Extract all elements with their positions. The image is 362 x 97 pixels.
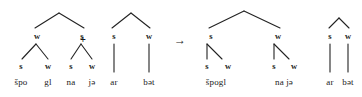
node-label-o-right: w <box>275 32 281 41</box>
terminal-t1-f4: jə <box>89 78 96 87</box>
input-tree-1-left-subtree-branches <box>22 44 48 59</box>
input-tree-1-right-subtree-branches <box>71 44 92 59</box>
terminal-t1-f1: špo <box>15 78 28 87</box>
node-label-o-l-s: s <box>205 62 208 71</box>
output-tree-right-subtree-branches <box>274 44 289 59</box>
node-label-o-r-w: w <box>291 62 297 71</box>
node-label-o2-w: w <box>345 32 351 41</box>
node-label-t1-l-s: s <box>19 62 22 71</box>
output-tree-2-top-branches <box>329 18 349 28</box>
node-label-o2-s: s <box>328 32 331 41</box>
output-tree-left-subtree-branches <box>207 44 222 59</box>
terminal-o-f2: na jə <box>275 78 293 87</box>
terminal-o2-f2: bət <box>342 78 353 87</box>
arrow-operator: → <box>174 34 186 46</box>
terminal-o-f1: špogl <box>206 78 226 87</box>
terminal-t2-f1: ar <box>110 78 117 87</box>
node-label-t1-left: w <box>34 32 40 41</box>
input-tree-2-stems <box>114 44 149 72</box>
node-label-o-r-s: s <box>272 62 275 71</box>
terminal-t1-f2: gl <box>44 78 51 87</box>
output-tree-2-stems <box>330 44 348 72</box>
node-label-t1-l-w: w <box>45 62 51 71</box>
node-label-t1-r-w: w <box>89 62 95 71</box>
output-tree-top-branches <box>209 11 280 28</box>
node-label-t1-right: s <box>80 32 83 41</box>
node-label-t2-right: w <box>146 32 152 41</box>
terminal-o2-f1: ar <box>326 78 333 87</box>
node-label-o-left: s <box>209 32 212 41</box>
node-label-t2-left: s <box>112 32 115 41</box>
input-tree-2-top-branches <box>112 13 150 28</box>
node-label-o-l-w: w <box>225 62 231 71</box>
tree-branch-lines <box>0 0 362 97</box>
metrical-tree-diagram: + → w s s w s w špo gl na jə s w ar bət … <box>0 0 362 97</box>
node-label-t1-r-s: s <box>69 62 72 71</box>
input-tree-1-top-branches <box>35 13 84 28</box>
terminal-t1-f3: na <box>67 78 76 87</box>
terminal-t2-f2: bət <box>143 78 154 87</box>
